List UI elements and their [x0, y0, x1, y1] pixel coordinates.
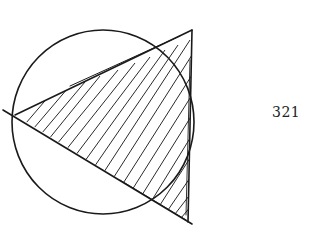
triangle-hatching	[20, 40, 192, 218]
page-number: 321	[272, 104, 300, 120]
